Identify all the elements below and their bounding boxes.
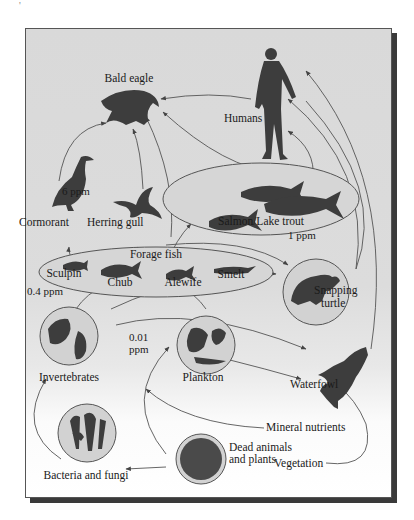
bald-eagle-icon (101, 90, 159, 125)
label-forage-fish: Forage fish (130, 248, 182, 260)
label-mineral-nutrients: Mineral nutrients (266, 421, 346, 433)
invertebrates-circle (40, 307, 98, 365)
label-plankton: Plankton (183, 371, 224, 383)
corner-mark: ' (19, 0, 21, 11)
diagram-frame: Bald eagle Humans 6 ppm Cormorant Herrin… (25, 28, 392, 498)
label-concentration-salmon: 1 ppm (288, 229, 316, 241)
label-herring-gull: Herring gull (87, 216, 144, 228)
cormorant-icon (52, 156, 94, 211)
label-alewife: Alewife (164, 276, 201, 288)
dead-matter-icon (180, 438, 222, 480)
label-concentration-birds: 6 ppm (62, 185, 90, 197)
food-web-diagram: Bald eagle Humans 6 ppm Cormorant Herrin… (25, 28, 392, 498)
herring-gull-icon (113, 187, 162, 219)
label-invertebrates: Invertebrates (39, 371, 99, 383)
label-vegetation: Vegetation (274, 457, 323, 469)
label-concentration-invertebrates-2: ppm (129, 343, 149, 355)
label-smelt: Smelt (218, 268, 245, 280)
label-bald-eagle: Bald eagle (105, 72, 154, 84)
label-dead-animals-2: and plants (229, 453, 276, 465)
label-salmon-lake-trout: Salmon/Lake trout (218, 215, 304, 227)
label-dead-animals-1: Dead animals (229, 441, 292, 453)
label-snapping-turtle-1: Snapping (314, 284, 357, 296)
label-chub: Chub (108, 276, 133, 288)
label-concentration-invertebrates-1: 0.01 (129, 331, 148, 343)
label-bacteria-fungi: Bacteria and fungi (44, 469, 129, 481)
label-sculpin: Sculpin (46, 267, 81, 279)
label-concentration-forage-fish: 0.4 ppm (27, 285, 63, 297)
label-waterfowl: Waterfowl (290, 378, 338, 390)
label-snapping-turtle-2: turtle (321, 297, 345, 309)
label-cormorant: Cormorant (19, 216, 69, 228)
plankton-circle (177, 316, 235, 374)
label-humans: Humans (224, 112, 262, 124)
human-icon (255, 48, 296, 160)
